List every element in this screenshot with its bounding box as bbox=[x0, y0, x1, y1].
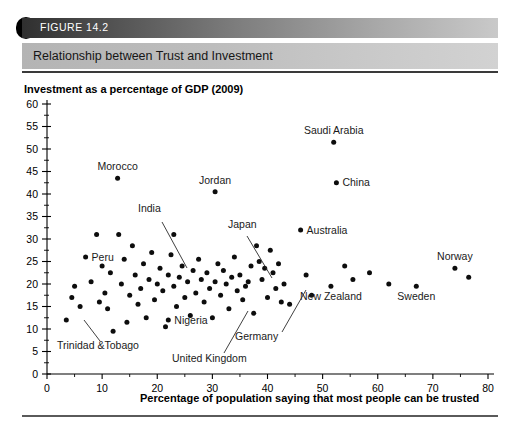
x-tick-label: 20 bbox=[151, 382, 163, 394]
data-point bbox=[171, 232, 176, 237]
data-point bbox=[452, 266, 457, 271]
point-label-peru: Peru bbox=[92, 251, 114, 263]
data-point bbox=[89, 279, 94, 284]
data-point bbox=[279, 300, 284, 305]
data-point bbox=[207, 286, 212, 291]
label-leader-line bbox=[84, 320, 100, 341]
data-point bbox=[235, 288, 240, 293]
data-point bbox=[229, 275, 234, 280]
data-point bbox=[191, 268, 196, 273]
data-point bbox=[237, 273, 242, 278]
label-leader-line bbox=[282, 290, 306, 332]
data-point bbox=[210, 315, 215, 320]
data-point bbox=[158, 266, 163, 271]
data-point bbox=[97, 300, 102, 305]
y-tick-label: 60 bbox=[26, 98, 38, 110]
data-point bbox=[304, 273, 309, 278]
point-label-nigeria: Nigeria bbox=[174, 314, 207, 326]
y-tick-label: 5 bbox=[32, 345, 38, 357]
data-point bbox=[152, 297, 157, 302]
data-point bbox=[180, 264, 185, 269]
data-point bbox=[144, 315, 149, 320]
data-point bbox=[100, 264, 105, 269]
data-point bbox=[331, 140, 336, 145]
data-point bbox=[130, 243, 135, 248]
data-point bbox=[155, 282, 160, 287]
y-tick-label: 10 bbox=[26, 323, 38, 335]
data-point bbox=[169, 252, 174, 257]
y-tick-label: 0 bbox=[32, 368, 38, 380]
data-point bbox=[246, 279, 251, 284]
data-point bbox=[249, 264, 254, 269]
data-point bbox=[105, 306, 110, 311]
scatter-plot: 0510152025303540455055600102030405060708… bbox=[0, 0, 515, 430]
data-point bbox=[386, 282, 391, 287]
y-tick-label: 30 bbox=[26, 233, 38, 245]
x-tick-label: 80 bbox=[482, 382, 494, 394]
data-point bbox=[78, 304, 83, 309]
data-point bbox=[218, 293, 223, 298]
data-point bbox=[243, 284, 248, 289]
point-label-germany: Germany bbox=[235, 330, 279, 342]
data-point bbox=[72, 284, 77, 289]
y-tick-label: 50 bbox=[26, 143, 38, 155]
y-tick-label: 55 bbox=[26, 120, 38, 132]
x-tick-label: 60 bbox=[372, 382, 384, 394]
data-point bbox=[273, 286, 278, 291]
scatter-plot-canvas: 0510152025303540455055600102030405060708… bbox=[0, 0, 515, 430]
data-point bbox=[240, 297, 245, 302]
data-point bbox=[268, 248, 273, 253]
y-tick-label: 25 bbox=[26, 255, 38, 267]
data-point bbox=[282, 282, 287, 287]
data-point bbox=[334, 180, 339, 185]
data-point bbox=[213, 189, 218, 194]
data-point bbox=[193, 291, 198, 296]
data-point bbox=[138, 286, 143, 291]
data-point bbox=[226, 306, 231, 311]
data-point bbox=[136, 302, 141, 307]
data-point bbox=[111, 329, 116, 334]
data-point bbox=[163, 324, 168, 329]
data-point bbox=[199, 277, 204, 282]
point-label-saudi-arabia: Saudi Arabia bbox=[304, 124, 364, 136]
data-point bbox=[141, 261, 146, 266]
point-label-jordan: Jordan bbox=[199, 174, 231, 186]
data-point bbox=[276, 261, 281, 266]
y-tick-label: 35 bbox=[26, 210, 38, 222]
data-point bbox=[149, 250, 154, 255]
point-label-china: China bbox=[342, 176, 370, 188]
data-point bbox=[185, 279, 190, 284]
data-point bbox=[265, 295, 270, 300]
data-point bbox=[64, 318, 69, 323]
data-point bbox=[166, 318, 171, 323]
point-label-morocco: Morocco bbox=[97, 160, 137, 172]
data-point bbox=[260, 277, 265, 282]
data-point bbox=[204, 270, 209, 275]
y-tick-label: 45 bbox=[26, 165, 38, 177]
data-point bbox=[196, 257, 201, 262]
label-leader-line bbox=[247, 236, 272, 278]
data-point bbox=[232, 255, 237, 260]
data-point bbox=[213, 279, 218, 284]
data-point bbox=[177, 275, 182, 280]
data-point bbox=[251, 311, 256, 316]
data-point bbox=[124, 320, 129, 325]
x-tick-label: 10 bbox=[96, 382, 108, 394]
data-point bbox=[328, 284, 333, 289]
data-point bbox=[115, 176, 120, 181]
data-point bbox=[414, 284, 419, 289]
data-point bbox=[147, 277, 152, 282]
data-point bbox=[298, 228, 303, 233]
data-point bbox=[367, 270, 372, 275]
data-point bbox=[122, 257, 127, 262]
data-point bbox=[202, 300, 207, 305]
data-point bbox=[166, 273, 171, 278]
y-tick-label: 15 bbox=[26, 300, 38, 312]
point-label-sweden: Sweden bbox=[397, 290, 435, 302]
data-point bbox=[171, 284, 176, 289]
data-point bbox=[221, 268, 226, 273]
x-tick-label: 40 bbox=[262, 382, 274, 394]
data-point bbox=[127, 293, 132, 298]
point-label-trinidad-tobago: Trinidad &Tobago bbox=[57, 339, 139, 351]
data-point bbox=[119, 282, 124, 287]
